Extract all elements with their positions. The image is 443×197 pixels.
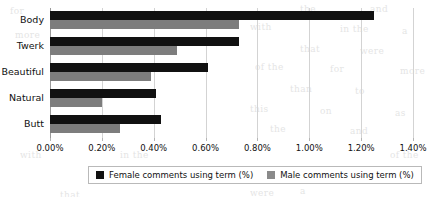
legend-item-male[interactable]: Male comments using term (%) [267,170,414,180]
bar-twerk-male [50,46,177,55]
bar-body-female [50,11,374,20]
xtick-label: 0.80% [244,143,271,153]
category-label-butt: Butt [24,118,44,129]
bar-beautiful-female [50,63,208,72]
xtick-label: 1.20% [348,143,375,153]
bar-natural-female [50,89,156,98]
bar-twerk-female [50,37,239,46]
gridline [361,8,362,138]
bleed-text: that [60,190,80,197]
xtick-label: 0.20% [88,143,115,153]
legend-swatch-male-icon [267,171,275,179]
gridline [257,8,258,138]
legend-swatch-female-icon [96,171,104,179]
category-label-natural: Natural [9,92,44,103]
bar-butt-female [50,115,161,124]
bar-natural-male [50,98,102,107]
category-label-beautiful: Beautiful [1,66,44,77]
bar-beautiful-male [50,72,151,81]
xtick-label: 1.40% [399,143,426,153]
xtick-label: 0.00% [36,143,63,153]
xtick-label: 1.00% [296,143,323,153]
bar-body-male [50,20,239,29]
category-axis: BodyTwerkBeautifulNaturalButt [0,8,46,138]
bleed-text: a [300,186,306,196]
gridline [413,8,414,138]
bleed-text: were [250,188,274,197]
value-axis-labels: 0.00%0.20%0.40%0.60%0.80%1.00%1.20%1.40% [0,139,443,155]
bar-chart: theandwithin theathatwereof theformoreth… [0,0,443,197]
legend-label-male: Male comments using term (%) [280,170,414,180]
legend-item-female[interactable]: Female comments using term (%) [96,170,253,180]
gridline [309,8,310,138]
category-label-twerk: Twerk [17,40,44,51]
xtick-label: 0.60% [192,143,219,153]
category-label-body: Body [20,14,44,25]
legend-label-female: Female comments using term (%) [109,170,253,180]
xtick-label: 0.40% [140,143,167,153]
plot-area [50,8,413,138]
bar-butt-male [50,124,120,133]
chart-legend: Female comments using term (%) Male comm… [88,166,422,184]
